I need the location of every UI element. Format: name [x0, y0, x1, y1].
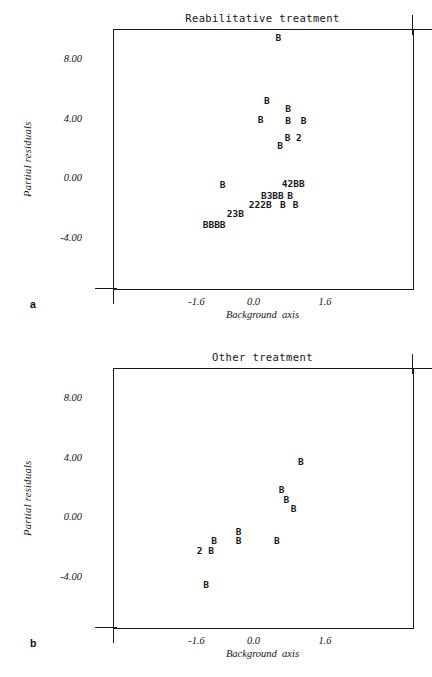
data-marker: B	[285, 114, 291, 125]
data-marker: 23B	[227, 208, 244, 219]
panel-letter-b: b	[30, 637, 36, 649]
data-marker: B	[220, 179, 226, 190]
data-marker: B	[279, 483, 285, 494]
data-marker: B	[236, 534, 242, 545]
axis-overshoot	[412, 354, 413, 374]
plot-frame	[113, 29, 414, 290]
x-axis-tick-label: 1.6	[295, 296, 355, 307]
data-marker: B	[211, 534, 217, 545]
panel-letter-a: a	[30, 298, 36, 310]
data-marker: 222B	[249, 198, 272, 209]
axis-overshoot	[113, 284, 114, 304]
y-axis-tick-label: 4.00	[28, 452, 82, 463]
x-axis-tick-label: 1.6	[295, 635, 355, 646]
axis-overshoot	[95, 627, 117, 628]
plot-title: Reabilitative treatment	[113, 12, 412, 24]
data-marker: B	[274, 534, 280, 545]
data-marker: B	[293, 198, 299, 209]
axis-overshoot	[95, 288, 117, 289]
data-marker: B	[301, 114, 307, 125]
data-marker: 42BB	[282, 178, 305, 189]
axis-overshoot	[412, 15, 413, 35]
y-axis-label: Partial residuals	[22, 121, 33, 197]
data-marker: B 2	[285, 131, 302, 142]
axis-overshoot	[412, 29, 432, 30]
x-axis-tick-label: -1.6	[167, 635, 227, 646]
data-marker: B	[258, 113, 264, 124]
y-axis-tick-label: 0.00	[28, 511, 82, 522]
y-axis-tick-label: 8.00	[28, 53, 82, 64]
y-axis-tick-label: 0.00	[28, 172, 82, 183]
plot-title: Other treatment	[113, 351, 412, 363]
x-axis-label: Background axis	[113, 309, 412, 320]
data-marker: B	[291, 503, 297, 514]
axis-overshoot	[113, 623, 114, 643]
data-marker: B	[284, 494, 290, 505]
data-marker: B	[264, 95, 270, 106]
x-axis-tick-label: -1.6	[167, 296, 227, 307]
x-axis-tick-label: 0.0	[224, 296, 284, 307]
y-axis-label: Partial residuals	[22, 460, 33, 536]
data-marker: 2 B	[197, 544, 214, 555]
panel-b-other: Other treatment8.004.000.00-4.00-1.60.01…	[0, 339, 431, 677]
x-axis-tick-label: 0.0	[224, 635, 284, 646]
axis-overshoot	[412, 368, 432, 369]
y-axis-tick-label: -4.00	[28, 232, 82, 243]
data-marker: B	[276, 31, 282, 42]
data-marker: B	[280, 198, 286, 209]
data-marker: BBBB	[203, 218, 226, 229]
data-marker: B	[285, 103, 291, 114]
panel-a-rehabilitative: Reabilitative treatment8.004.000.00-4.00…	[0, 0, 431, 338]
data-marker: B	[298, 455, 304, 466]
y-axis-tick-label: 4.00	[28, 113, 82, 124]
y-axis-tick-label: -4.00	[28, 571, 82, 582]
plot-frame	[113, 368, 414, 629]
data-marker: B	[277, 139, 283, 150]
x-axis-label: Background axis	[113, 648, 412, 659]
data-marker: B	[203, 579, 209, 590]
y-axis-tick-label: 8.00	[28, 392, 82, 403]
